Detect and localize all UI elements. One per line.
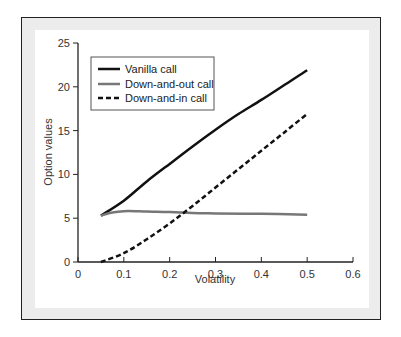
x-axis-label: Volatility — [195, 273, 236, 285]
x-tick-label: 0.4 — [254, 268, 269, 280]
y-tick-label: 20 — [58, 81, 70, 93]
y-tick-label: 5 — [64, 212, 70, 224]
x-tick-label: 0.1 — [116, 268, 131, 280]
series-down-and-in-call — [101, 114, 307, 262]
y-tick-label: 10 — [58, 168, 70, 180]
legend-label-down-and-out: Down-and-out call — [125, 78, 214, 90]
x-tick-label: 0 — [75, 268, 81, 280]
y-tick-label: 25 — [58, 37, 70, 49]
y-axis-label: Option values — [42, 118, 54, 186]
y-tick-label: 0 — [64, 256, 70, 268]
legend: Vanilla call Down-and-out call Down-and-… — [91, 57, 214, 110]
y-tick-label: 15 — [58, 125, 70, 137]
x-tick-label: 0.6 — [345, 268, 360, 280]
x-tick-label: 0.5 — [300, 268, 315, 280]
legend-label-down-and-in: Down-and-in call — [125, 92, 207, 104]
series-down-and-out-call — [101, 211, 307, 216]
chart: 00.10.20.30.40.50.60510152025 Vanilla ca… — [0, 0, 401, 337]
x-tick-label: 0.2 — [162, 268, 177, 280]
legend-label-vanilla: Vanilla call — [125, 63, 177, 75]
